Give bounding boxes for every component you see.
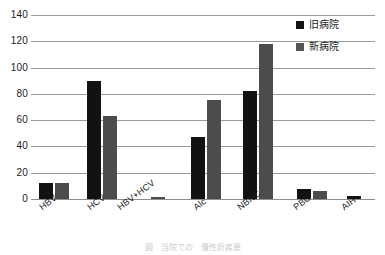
gridline-80 [31,94,375,95]
y-tick-100: 100 [0,63,28,73]
gridline-60 [31,120,375,121]
bar-nbnc-old [243,91,257,199]
bar-alc-new [207,100,221,199]
legend-label-new: 新病院 [309,42,339,52]
gridline-100 [31,68,375,69]
y-tick-20: 20 [0,168,28,178]
legend-label-old: 旧病院 [309,20,339,30]
figure-caption: 図 当院での 慢性肝疾患 [0,243,385,253]
bar-chart: 140 120 100 80 60 40 20 0 HBV HCV HBV+HC… [0,0,385,255]
bar-nbnc-new [259,44,273,199]
bar-hbv-new [55,183,69,199]
y-tick-60: 60 [0,115,28,125]
legend-item-new: 新病院 [296,36,376,58]
bar-hbv-hcv-new [151,197,165,199]
y-tick-120: 120 [0,36,28,46]
bar-alc-old [191,137,205,199]
bar-hcv-old [87,81,101,199]
chart-legend: 旧病院 新病院 [296,14,376,58]
bar-pbc-new [313,191,327,199]
legend-item-old: 旧病院 [296,14,376,36]
legend-swatch-icon-old [296,21,304,29]
legend-swatch-icon-new [296,43,304,51]
y-tick-140: 140 [0,10,28,20]
y-tick-40: 40 [0,141,28,151]
y-tick-0: 0 [0,194,28,204]
bar-hcv-new [103,116,117,199]
y-tick-80: 80 [0,89,28,99]
